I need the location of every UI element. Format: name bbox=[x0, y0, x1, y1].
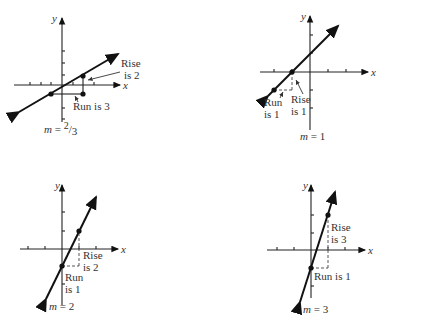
rise-label: Riseis 3 bbox=[331, 221, 351, 245]
x-axis-label: x bbox=[370, 66, 376, 78]
slope-diagrams: x y Riseis 2 Run is 3 m = 2/3 bbox=[0, 0, 421, 333]
point bbox=[80, 73, 85, 78]
point bbox=[271, 87, 276, 92]
slope-label: m = 2 bbox=[49, 300, 74, 312]
y-axis-label: y bbox=[302, 179, 308, 191]
run-label: Runis 1 bbox=[65, 271, 84, 295]
point bbox=[48, 91, 53, 96]
point bbox=[59, 263, 64, 268]
panel-slope-three: x y Riseis 3 Run is 1 m = 3 bbox=[267, 179, 373, 315]
y-axis-label: y bbox=[54, 179, 60, 191]
panel-slope-two: x y Riseis 2 Runis 1 m = 2 bbox=[20, 179, 126, 312]
y-axis-label: y bbox=[300, 10, 306, 22]
x-axis: x bbox=[260, 66, 376, 78]
rise-label: Riseis 1 bbox=[291, 93, 311, 117]
panel-slope-one: x y Runis 1 Riseis 1 m = 1 bbox=[260, 10, 376, 142]
point bbox=[325, 212, 330, 217]
line bbox=[268, 26, 338, 96]
rise-label: Riseis 2 bbox=[83, 249, 103, 273]
y-axis: y bbox=[54, 179, 65, 305]
slope-label: m = 2/3 bbox=[44, 120, 78, 137]
panel-slope-two-thirds: x y Riseis 2 Run is 3 m = 2/3 bbox=[14, 12, 141, 137]
point bbox=[80, 91, 85, 96]
x-axis: x bbox=[267, 244, 373, 256]
y-axis-label: y bbox=[51, 12, 57, 24]
line bbox=[300, 192, 335, 302]
run-label: Runis 1 bbox=[264, 96, 283, 120]
run-label: Run is 1 bbox=[314, 270, 351, 282]
point bbox=[289, 69, 294, 74]
x-axis-label: x bbox=[120, 243, 126, 255]
point bbox=[308, 265, 313, 270]
point bbox=[76, 228, 81, 233]
x-axis-label: x bbox=[367, 244, 373, 256]
slope-label: m = 1 bbox=[300, 130, 325, 142]
slope-label: m = 3 bbox=[303, 303, 329, 315]
run-label: Run is 3 bbox=[73, 100, 110, 112]
y-axis: y bbox=[51, 12, 65, 122]
rise-label: Riseis 2 bbox=[121, 57, 141, 81]
